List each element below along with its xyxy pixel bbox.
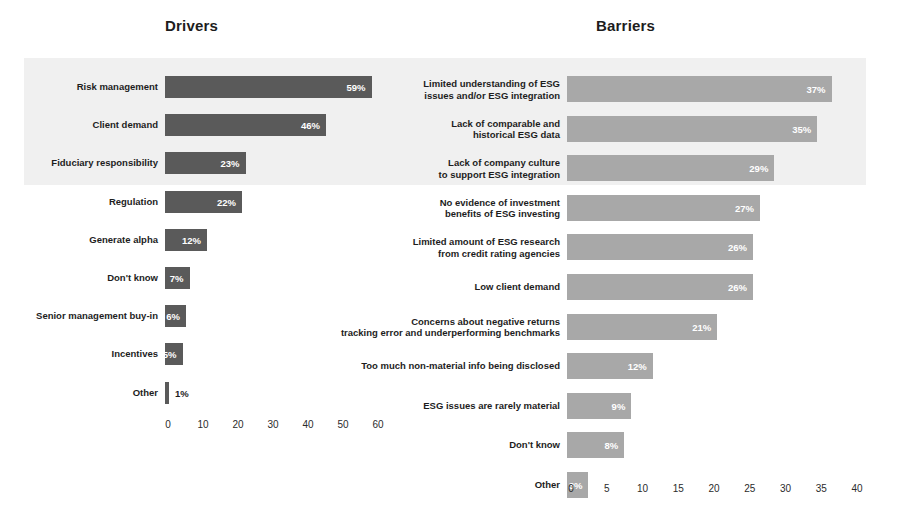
category-label-line2: benefits of ESG investing	[445, 208, 560, 219]
category-label: Concerns about negative returnstracking …	[341, 315, 560, 338]
category-label: ESG issues are rarely material	[423, 400, 560, 412]
bar-value-label: 12%	[628, 361, 647, 372]
bar-row: Limited understanding of ESGissues and/o…	[567, 73, 832, 105]
barriers-x-axis: 0510152025303540	[0, 483, 904, 499]
bar-row: Concerns about negative returnstracking …	[567, 311, 717, 343]
bar-row: ESG issues are rarely material9%	[567, 390, 631, 422]
bar-row: Lack of company cultureto support ESG in…	[567, 152, 774, 184]
bar-row: Too much non-material info being disclos…	[567, 350, 653, 382]
category-label-line2: historical ESG data	[473, 129, 560, 140]
bar	[567, 76, 832, 102]
category-label: Limited understanding of ESGissues and/o…	[423, 78, 560, 101]
axis-tick-label: 30	[780, 483, 791, 494]
bar-row: No evidence of investmentbenefits of ESG…	[567, 192, 760, 224]
axis-tick-label: 15	[673, 483, 684, 494]
barriers-panel: Barriers Limited understanding of ESGiss…	[0, 0, 904, 521]
bar-value-label: 29%	[749, 163, 768, 174]
category-label: Lack of company cultureto support ESG in…	[439, 157, 560, 180]
bar-value-label: 35%	[792, 123, 811, 134]
category-label-line2: from credit rating agencies	[438, 247, 560, 258]
bar-value-label: 26%	[728, 282, 747, 293]
barriers-panel-title: Barriers	[596, 17, 655, 34]
axis-tick-label: 40	[851, 483, 862, 494]
bar-row: Lack of comparable andhistorical ESG dat…	[567, 113, 817, 145]
bar-value-label: 21%	[692, 321, 711, 332]
esg-survey-figure: Drivers Risk management59%Client demand4…	[0, 0, 904, 521]
axis-tick-label: 5	[604, 483, 610, 494]
axis-tick-label: 10	[637, 483, 648, 494]
bar	[567, 234, 753, 260]
bar	[567, 155, 774, 181]
bar	[567, 195, 760, 221]
bar-row: Limited amount of ESG researchfrom credi…	[567, 231, 753, 263]
axis-tick-label: 20	[708, 483, 719, 494]
bar-value-label: 26%	[728, 242, 747, 253]
bar-row: Don't know8%	[567, 429, 624, 461]
bar-value-label: 37%	[807, 84, 826, 95]
category-label: Don't know	[509, 440, 560, 452]
axis-tick-label: 0	[568, 483, 574, 494]
bar	[567, 116, 817, 142]
category-label-line2: to support ESG integration	[439, 168, 560, 179]
category-label: Low client demand	[474, 281, 560, 293]
category-label: No evidence of investmentbenefits of ESG…	[440, 196, 560, 219]
axis-tick-label: 25	[744, 483, 755, 494]
bar-value-label: 8%	[604, 440, 618, 451]
category-label-line2: issues and/or ESG integration	[424, 89, 560, 100]
axis-tick-label: 35	[816, 483, 827, 494]
bar-value-label: 27%	[735, 202, 754, 213]
category-label: Lack of comparable andhistorical ESG dat…	[451, 117, 560, 140]
bar-row: Low client demand26%	[567, 271, 753, 303]
bar	[567, 274, 753, 300]
category-label: Too much non-material info being disclos…	[361, 360, 560, 372]
category-label: Limited amount of ESG researchfrom credi…	[413, 236, 560, 259]
bar-value-label: 9%	[612, 400, 626, 411]
category-label-line2: tracking error and underperforming bench…	[341, 327, 560, 338]
